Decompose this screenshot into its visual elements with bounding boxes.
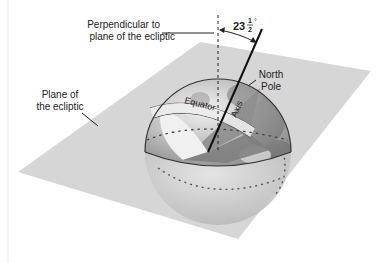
perpendicular-label-line1: Perpendicular to <box>87 19 160 30</box>
angle-label-whole: 23 <box>233 20 245 32</box>
north-pole-label-line1: North <box>259 69 283 80</box>
earth-axial-tilt-diagram: Perpendicular to plane of the ecliptic 2… <box>0 0 386 263</box>
perpendicular-label-line2: plane of the ecliptic <box>89 31 175 42</box>
north-pole-label-line2: Pole <box>261 81 281 92</box>
angle-label-numerator: 1 <box>248 17 252 24</box>
angle-label-denominator: 2 <box>248 26 252 33</box>
plane-label-line2: the ecliptic <box>36 101 83 112</box>
angle-degree-symbol: ° <box>254 18 257 25</box>
plane-label-line1: Plane of <box>42 89 79 100</box>
